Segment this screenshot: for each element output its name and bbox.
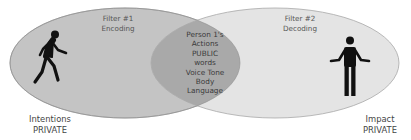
- overlap-line: words: [170, 58, 240, 67]
- intentions-line2: PRIVATE: [20, 125, 80, 136]
- filter-2-subtitle: Decoding: [270, 24, 330, 34]
- overlap-line: Voice Tone: [170, 68, 240, 77]
- impact-line1: Impact: [355, 114, 405, 125]
- filter-1-subtitle: Encoding: [88, 24, 148, 34]
- overlap-label: Person 1's Actions PUBLIC words Voice To…: [170, 30, 240, 96]
- overlap-line: Body: [170, 77, 240, 86]
- overlap-line: Actions: [170, 39, 240, 48]
- intentions-line1: Intentions: [20, 114, 80, 125]
- filter-1-label: Filter #1 Encoding: [88, 14, 148, 33]
- overlap-line: Language: [170, 86, 240, 95]
- filter-2-title: Filter #2: [270, 14, 330, 24]
- impact-line2: PRIVATE: [355, 125, 405, 136]
- intentions-caption: Intentions PRIVATE: [20, 114, 80, 135]
- filter-1-title: Filter #1: [88, 14, 148, 24]
- overlap-line: Person 1's: [170, 30, 240, 39]
- filter-2-label: Filter #2 Decoding: [270, 14, 330, 33]
- overlap-line: PUBLIC: [170, 49, 240, 58]
- impact-caption: Impact PRIVATE: [355, 114, 405, 135]
